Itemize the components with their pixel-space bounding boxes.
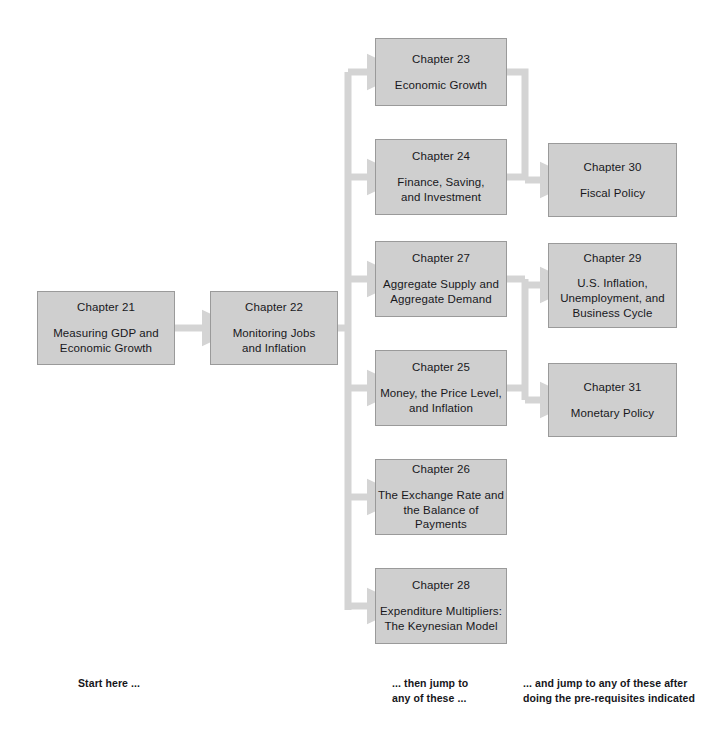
node-ch29-chapter: Chapter 29 (584, 251, 642, 266)
caption-start-here: Start here ... (78, 676, 140, 691)
node-ch28[interactable]: Chapter 28 Expenditure Multipliers: The … (375, 568, 507, 644)
node-ch30-chapter: Chapter 30 (584, 160, 642, 175)
node-ch31-title: Monetary Policy (571, 406, 654, 421)
node-ch29-title: U.S. Inflation, Unemployment, and Busine… (560, 276, 665, 320)
node-ch27[interactable]: Chapter 27 Aggregate Supply and Aggregat… (375, 241, 507, 317)
caption-and-jump-to: ... and jump to any of these after doing… (523, 676, 695, 706)
node-ch25-title: Money, the Price Level, and Inflation (380, 386, 502, 415)
node-ch29[interactable]: Chapter 29 U.S. Inflation, Unemployment,… (548, 243, 677, 328)
node-ch24-title: Finance, Saving, and Investment (397, 175, 484, 204)
flowchart-canvas: Chapter 21 Measuring GDP and Economic Gr… (0, 0, 724, 751)
node-ch24-chapter: Chapter 24 (412, 149, 470, 164)
node-ch26-title: The Exchange Rate and the Balance of Pay… (376, 488, 506, 532)
node-ch21[interactable]: Chapter 21 Measuring GDP and Economic Gr… (37, 291, 175, 365)
node-ch23[interactable]: Chapter 23 Economic Growth (375, 38, 507, 106)
node-ch23-title: Economic Growth (395, 78, 487, 93)
node-ch22-title: Monitoring Jobs and Inflation (233, 326, 316, 355)
node-ch30[interactable]: Chapter 30 Fiscal Policy (548, 143, 677, 217)
node-ch27-chapter: Chapter 27 (412, 251, 470, 266)
node-ch25-chapter: Chapter 25 (412, 360, 470, 375)
node-ch31[interactable]: Chapter 31 Monetary Policy (548, 363, 677, 437)
caption-then-jump-to: ... then jump to any of these ... (392, 676, 468, 706)
node-ch30-title: Fiscal Policy (580, 186, 645, 201)
node-ch28-title: Expenditure Multipliers: The Keynesian M… (380, 604, 502, 633)
node-ch25[interactable]: Chapter 25 Money, the Price Level, and I… (375, 350, 507, 426)
node-ch28-chapter: Chapter 28 (412, 578, 470, 593)
edge-ch23-ch30 (507, 72, 525, 180)
node-ch22[interactable]: Chapter 22 Monitoring Jobs and Inflation (210, 291, 338, 365)
node-ch27-title: Aggregate Supply and Aggregate Demand (383, 277, 499, 306)
node-ch26[interactable]: Chapter 26 The Exchange Rate and the Bal… (375, 459, 507, 535)
node-ch26-chapter: Chapter 26 (412, 462, 470, 477)
node-ch22-chapter: Chapter 22 (245, 300, 303, 315)
node-ch23-chapter: Chapter 23 (412, 52, 470, 67)
node-ch21-chapter: Chapter 21 (77, 300, 135, 315)
node-ch21-title: Measuring GDP and Economic Growth (53, 326, 159, 355)
node-ch24[interactable]: Chapter 24 Finance, Saving, and Investme… (375, 139, 507, 215)
node-ch31-chapter: Chapter 31 (584, 380, 642, 395)
